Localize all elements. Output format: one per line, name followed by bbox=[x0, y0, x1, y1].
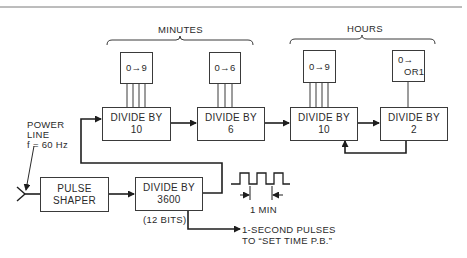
clock-block-diagram: MINUTES HOURS 0→9 0→6 0→9 0→ OR1 DIVIDE … bbox=[0, 0, 467, 258]
counter-range: 0→ bbox=[398, 54, 413, 66]
bus-hr-units bbox=[310, 82, 328, 107]
divider-title: DIVIDE BY bbox=[110, 112, 162, 124]
pulse-shaper-line2: SHAPER bbox=[53, 195, 96, 207]
divider-value: 6 bbox=[228, 124, 234, 136]
period-dimension bbox=[240, 186, 283, 200]
counter-range: 0→9 bbox=[126, 62, 147, 74]
power-line-frequency: f = 60 Hz bbox=[27, 139, 68, 150]
counter-range: 0→9 bbox=[309, 61, 330, 73]
power-label-pointer bbox=[26, 146, 34, 190]
divide-by-10-hours: DIVIDE BY 10 bbox=[290, 107, 358, 141]
counter-hours-units: 0→9 bbox=[303, 50, 336, 83]
minutes-label: MINUTES bbox=[158, 24, 203, 35]
output-label-1: 1-SECOND PULSES bbox=[242, 224, 336, 235]
divide-by-3600: DIVIDE BY 3600 bbox=[135, 177, 203, 211]
bus-min-units bbox=[127, 83, 145, 107]
divider-value: 3600 bbox=[157, 194, 180, 206]
divide-by-6: DIVIDE BY 6 bbox=[197, 107, 265, 141]
divider-value: 2 bbox=[411, 124, 417, 136]
pulse-shaper-line1: PULSE bbox=[57, 183, 91, 195]
divider-title: DIVIDE BY bbox=[205, 112, 257, 124]
pulse-waveform bbox=[231, 173, 290, 184]
output-label-2: TO “SET TIME P.B.” bbox=[242, 235, 332, 246]
feedback-div2-reset bbox=[345, 140, 406, 153]
pulse-shaper: PULSE SHAPER bbox=[40, 177, 109, 212]
divider-value: 10 bbox=[318, 124, 330, 136]
counter-minutes-units: 0→9 bbox=[120, 52, 153, 84]
minutes-brace bbox=[107, 36, 253, 45]
bus-min-tens bbox=[218, 83, 232, 107]
arrow-1sec-output bbox=[188, 210, 240, 229]
hours-brace bbox=[290, 35, 435, 44]
hours-label: HOURS bbox=[347, 23, 383, 34]
power-plug-icon bbox=[17, 187, 25, 201]
divider-title: DIVIDE BY bbox=[298, 112, 350, 124]
divide-by-10-minutes: DIVIDE BY 10 bbox=[102, 107, 171, 141]
counter-minutes-tens: 0→6 bbox=[209, 52, 241, 84]
divider-title: DIVIDE BY bbox=[143, 182, 195, 194]
divide-by-2: DIVIDE BY 2 bbox=[380, 107, 448, 141]
counter-range-end: OR1 bbox=[398, 66, 424, 78]
divider-title: DIVIDE BY bbox=[388, 112, 440, 124]
counter-range: 0→6 bbox=[215, 62, 236, 74]
divider-bits-note: (12 BITS) bbox=[143, 214, 186, 225]
counter-hours-tens: 0→ OR1 bbox=[392, 50, 425, 82]
divider-value: 10 bbox=[131, 124, 143, 136]
waveform-period-label: 1 MIN bbox=[250, 204, 277, 215]
